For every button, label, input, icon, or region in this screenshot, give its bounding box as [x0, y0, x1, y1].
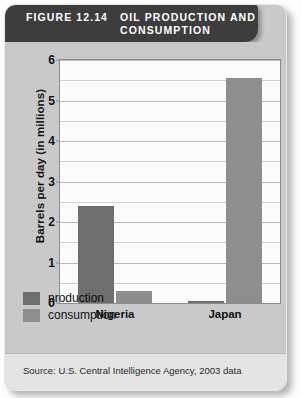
- gridline: [60, 60, 280, 61]
- y-axis-tick-mark: [56, 222, 60, 223]
- bar-japan-consumption: [226, 78, 262, 303]
- y-axis-title: Barrels per day (in millions): [34, 61, 46, 271]
- x-axis-label-japan: Japan: [208, 308, 241, 320]
- bar-nigeria-production: [78, 206, 114, 303]
- y-axis-tick-label: 3: [48, 175, 55, 189]
- plot-area: 0123456NigeriaJapan: [59, 59, 281, 304]
- y-axis-tick-label: 6: [48, 53, 55, 67]
- figure-number-label: FIGURE 12.14: [26, 11, 108, 23]
- legend-label-consumption: consumption: [48, 308, 116, 322]
- source-text: Source: U.S. Central Intelligence Agency…: [23, 365, 241, 376]
- y-axis-tick-mark: [56, 60, 60, 61]
- y-axis-tick-label: 4: [48, 134, 55, 148]
- y-axis-tick-label: 5: [48, 94, 55, 108]
- y-axis-tick-mark: [56, 262, 60, 263]
- figure-title-banner: FIGURE 12.14 OIL PRODUCTION AND CONSUMPT…: [5, 5, 258, 42]
- legend-item-consumption: consumption: [23, 308, 116, 322]
- y-axis-tick-label: 1: [48, 256, 55, 270]
- y-axis-tick-mark: [56, 181, 60, 182]
- y-axis-tick-mark: [56, 141, 60, 142]
- legend-item-production: production: [23, 291, 116, 305]
- legend-label-production: production: [48, 291, 104, 305]
- bar-nigeria-consumption: [116, 291, 152, 303]
- bar-japan-production: [188, 301, 224, 303]
- figure-title: OIL PRODUCTION AND CONSUMPTION: [120, 11, 258, 36]
- figure-root: FIGURE 12.14 OIL PRODUCTION AND CONSUMPT…: [0, 0, 301, 398]
- legend-swatch-production: [23, 292, 40, 305]
- y-axis-tick-label: 2: [48, 215, 55, 229]
- figure-card: FIGURE 12.14 OIL PRODUCTION AND CONSUMPT…: [4, 4, 287, 391]
- y-axis-tick-mark: [56, 100, 60, 101]
- legend-swatch-consumption: [23, 309, 40, 322]
- source-bar: Source: U.S. Central Intelligence Agency…: [5, 353, 286, 391]
- chart-legend: production consumption: [23, 291, 116, 325]
